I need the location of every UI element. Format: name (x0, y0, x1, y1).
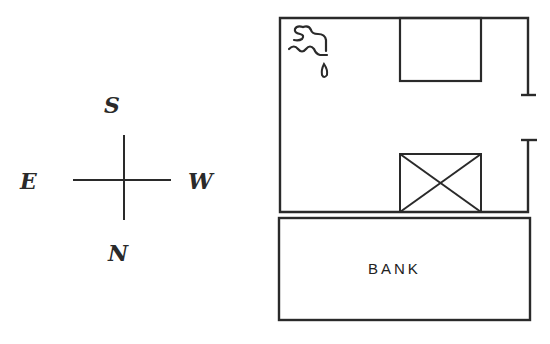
compass-label-north: N (108, 242, 128, 264)
compass-cross (73, 135, 171, 220)
compass-label-west: W (188, 170, 213, 192)
crossed-box (400, 154, 481, 212)
room-walls (280, 18, 537, 212)
faucet-icon (289, 26, 327, 77)
diagram-canvas (0, 0, 550, 344)
room-box (400, 18, 481, 81)
compass-label-south: S (104, 94, 120, 116)
bank-label: BANK (368, 260, 421, 277)
compass-label-east: E (20, 170, 37, 192)
